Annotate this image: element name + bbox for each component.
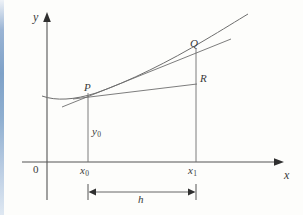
dimension-label-h: h <box>138 194 144 205</box>
x-axis-label: x <box>284 169 289 181</box>
y-axis-group <box>43 12 51 200</box>
point-label-P: P <box>84 82 91 93</box>
x-axis-group <box>22 158 284 166</box>
diagram-svg-container <box>0 0 303 215</box>
figure-canvas: y x 0 P Q R y0 x0 x1 h <box>0 0 303 215</box>
point-label-R: R <box>200 73 207 84</box>
y-axis-label: y <box>33 11 38 23</box>
origin-label: 0 <box>33 164 39 175</box>
math-diagram-svg <box>0 0 303 215</box>
tick-label-x1: x1 <box>188 165 197 176</box>
dimension-arrowhead-left-icon <box>89 189 97 196</box>
ordinate-label-y0-subscript: 0 <box>97 130 101 139</box>
dimension-arrowhead-right-icon <box>188 189 196 196</box>
segment-PR <box>73 84 197 99</box>
tick-label-x0-subscript: 0 <box>85 169 89 178</box>
tick-label-x1-subscript: 1 <box>193 169 197 178</box>
ordinate-label-y0: y0 <box>92 126 101 137</box>
function-curve <box>42 14 248 99</box>
y-axis-arrowhead-icon <box>43 12 51 22</box>
point-label-Q: Q <box>190 38 198 49</box>
x-axis-arrowhead-icon <box>274 158 284 166</box>
tick-label-x0: x0 <box>80 165 89 176</box>
